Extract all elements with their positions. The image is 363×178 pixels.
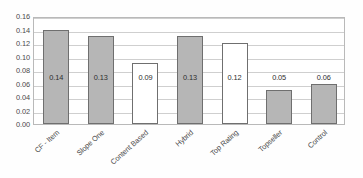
x-tick-label: Top Rating	[208, 128, 240, 158]
bar-value-label: 0.06	[317, 74, 331, 82]
bar-slot: 0.14	[34, 18, 79, 124]
bar-slot: 0.13	[79, 18, 124, 124]
y-tick-label: 0.06	[16, 81, 30, 89]
bar-slot: 0.06	[301, 18, 346, 124]
bar-value-label: 0.09	[138, 74, 152, 82]
y-tick-label: 0.10	[16, 54, 30, 62]
bars-layer: 0.140.130.090.130.120.050.06	[34, 18, 344, 124]
y-tick-label: 0.12	[16, 40, 30, 48]
x-tick-slot: Topseller	[256, 126, 301, 178]
x-axis: CF - ItemSlope OneContent BasedHybridTop…	[33, 126, 345, 178]
plot-area: 0.140.130.090.130.120.050.06	[33, 17, 345, 125]
bar-slot: 0.05	[257, 18, 302, 124]
bar-value-label: 0.12	[228, 74, 242, 82]
bar-slot: 0.13	[168, 18, 213, 124]
x-tick-slot: Control	[300, 126, 345, 178]
bar-value-label: 0.13	[94, 74, 108, 82]
y-axis: 0.000.020.040.060.080.100.120.140.16	[0, 0, 32, 178]
bar-chart-figure: 0.000.020.040.060.080.100.120.140.16 0.1…	[0, 0, 363, 178]
y-tick-label: 0.02	[16, 108, 30, 116]
bar-slot: 0.09	[123, 18, 168, 124]
bar[interactable]	[311, 84, 337, 125]
x-tick-label: Control	[306, 128, 329, 150]
bar-slot: 0.12	[212, 18, 257, 124]
bar-value-label: 0.13	[183, 74, 197, 82]
bar-value-label: 0.14	[49, 74, 63, 82]
x-tick-slot: Content Based	[122, 126, 167, 178]
x-tick-slot: CF - Item	[33, 126, 78, 178]
x-tick-label: CF - Item	[33, 128, 61, 155]
x-tick-label: Topseller	[257, 128, 284, 154]
x-tick-slot: Hybrid	[167, 126, 212, 178]
x-tick-label: Hybrid	[174, 128, 195, 149]
y-tick-label: 0.04	[16, 94, 30, 102]
y-tick-label: 0.08	[16, 67, 30, 75]
bar[interactable]	[222, 43, 248, 124]
x-tick-slot: Top Rating	[211, 126, 256, 178]
bar[interactable]	[266, 90, 292, 124]
y-tick-label: 0.00	[16, 121, 30, 129]
bar-value-label: 0.05	[272, 74, 286, 82]
y-tick-label: 0.16	[16, 13, 30, 21]
x-tick-label: Slope One	[75, 128, 106, 157]
y-tick-label: 0.14	[16, 27, 30, 35]
